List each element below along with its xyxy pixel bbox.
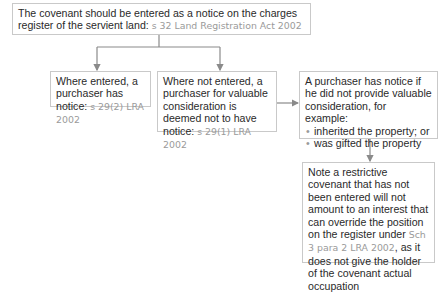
node-purchaser-notice: A purchaser has notice if he did not pro… bbox=[299, 71, 438, 139]
example-list: inherited the property; or was gifted th… bbox=[305, 125, 432, 150]
node-entered: Where entered, a purchaser has notice: s… bbox=[50, 71, 151, 107]
node-purchaser-notice-text: A purchaser has notice if he did not pro… bbox=[305, 75, 432, 125]
node-note: Note a restrictive covenant that has not… bbox=[302, 162, 435, 263]
node-top: The covenant should be entered as a noti… bbox=[12, 3, 311, 35]
node-not-entered: Where not entered, a purchaser for valua… bbox=[157, 71, 277, 132]
example-item: was gifted the property bbox=[305, 137, 432, 149]
example-item: inherited the property; or bbox=[305, 125, 432, 137]
node-top-reference: s 32 Land Registration Act 2002 bbox=[152, 20, 302, 31]
